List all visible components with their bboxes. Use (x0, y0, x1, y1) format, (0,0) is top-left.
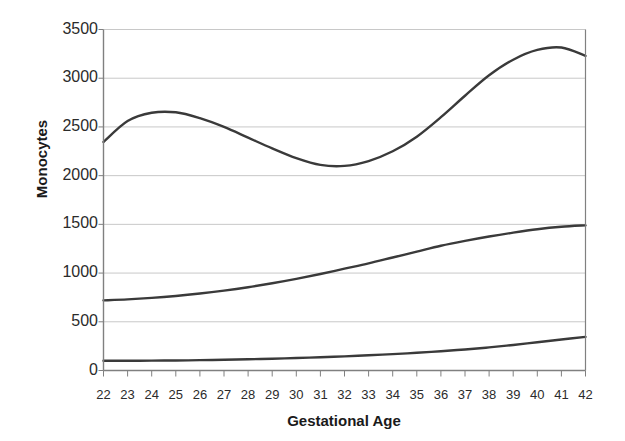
x-tick-label: 28 (235, 387, 261, 402)
x-tick-label: 36 (428, 387, 454, 402)
x-tick-label: 24 (139, 387, 165, 402)
x-tick-label: 37 (452, 387, 478, 402)
x-tick-label: 41 (548, 387, 574, 402)
y-axis-ticks (99, 30, 104, 371)
x-tick-label: 40 (524, 387, 550, 402)
y-tick-label: 500 (38, 312, 98, 330)
y-tick-label: 3000 (38, 68, 98, 86)
series-line-upper-curve (104, 47, 586, 166)
data-series (104, 47, 586, 361)
series-line-middle-curve (104, 225, 586, 300)
x-tick-label: 30 (283, 387, 309, 402)
series-line-lower-curve (104, 337, 586, 361)
y-tick-label: 1000 (38, 263, 98, 281)
y-tick-label: 0 (38, 361, 98, 379)
x-tick-label: 31 (307, 387, 333, 402)
x-tick-label: 26 (187, 387, 213, 402)
y-axis-title: Monocytes (33, 89, 51, 229)
x-axis-ticks (104, 371, 586, 377)
x-tick-label: 42 (573, 387, 599, 402)
gridlines (104, 30, 586, 322)
x-axis-title: Gestational Age (103, 412, 585, 430)
y-tick-label: 3500 (38, 20, 98, 38)
x-tick-label: 22 (91, 387, 117, 402)
x-tick-label: 34 (380, 387, 406, 402)
x-tick-label: 32 (332, 387, 358, 402)
axis-lines (104, 30, 586, 371)
x-tick-label: 29 (259, 387, 285, 402)
x-tick-label: 35 (404, 387, 430, 402)
x-tick-label: 27 (211, 387, 237, 402)
x-tick-label: 25 (163, 387, 189, 402)
x-tick-label: 38 (476, 387, 502, 402)
x-tick-label: 39 (500, 387, 526, 402)
x-axis-title-text: Gestational Age (287, 412, 401, 429)
x-tick-label: 33 (356, 387, 382, 402)
y-axis-title-text: Monocytes (33, 120, 50, 198)
x-tick-label: 23 (115, 387, 141, 402)
monocytes-gestational-age-chart: 0500100015002000250030003500 22232425262… (0, 0, 625, 441)
